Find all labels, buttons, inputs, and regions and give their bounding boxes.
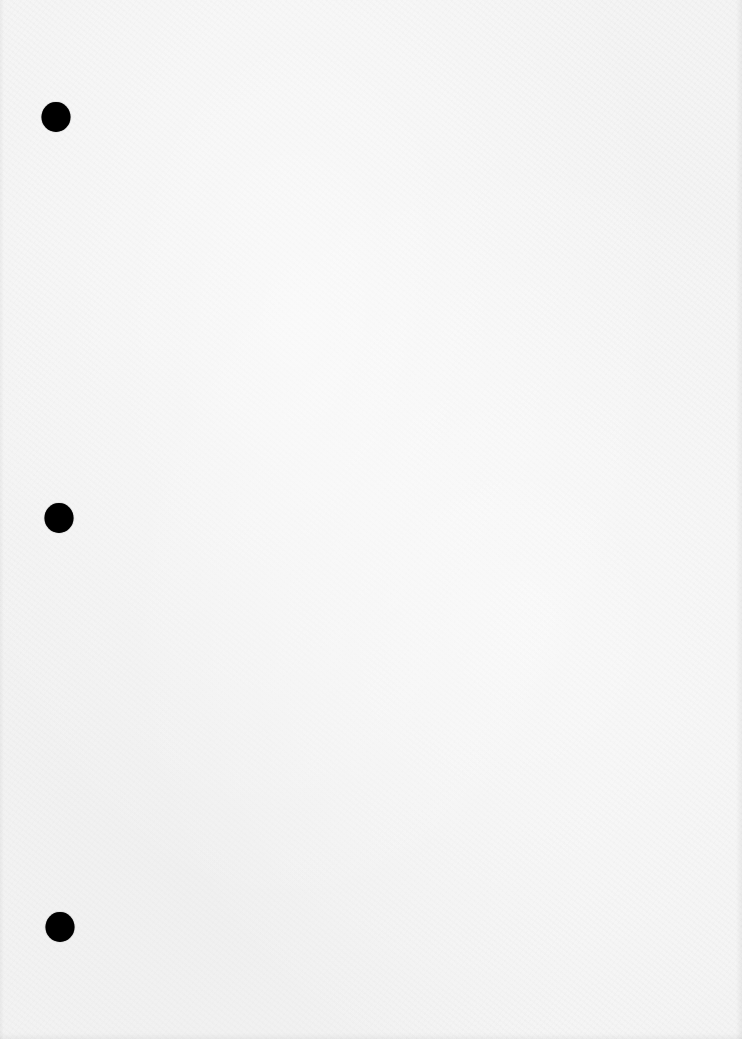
page-edge-bottom [0, 1033, 742, 1039]
page-edge-right [736, 0, 742, 1039]
punch-hole-middle [45, 503, 74, 533]
page-edge-left [0, 0, 4, 1039]
punch-hole-bottom [46, 912, 75, 942]
scanned-page [0, 0, 742, 1039]
punch-hole-top [42, 102, 71, 132]
